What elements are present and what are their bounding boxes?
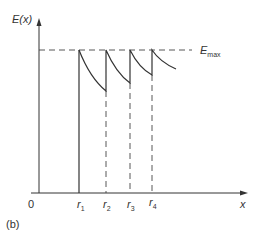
x-axis-arrow-icon: [240, 191, 248, 196]
panel-label: (b): [6, 218, 19, 230]
tick-r1: r1: [77, 198, 85, 212]
emax-label: Emax: [200, 44, 221, 58]
tick-r2: r2: [103, 198, 111, 212]
emax-label-sub: max: [207, 51, 220, 58]
tick-r3: r3: [127, 198, 135, 212]
y-axis-label: E(x): [12, 13, 32, 25]
tick-sub: 1: [81, 205, 85, 212]
energy-curve: [79, 50, 176, 91]
origin-label: 0: [28, 198, 34, 210]
tick-sub: 2: [107, 205, 111, 212]
y-axis-arrow-icon: [37, 18, 42, 26]
x-axis-label: x: [240, 198, 246, 210]
tick-sub: 3: [131, 205, 135, 212]
tick-sub: 4: [153, 203, 157, 210]
tick-r4: r4: [149, 196, 157, 210]
